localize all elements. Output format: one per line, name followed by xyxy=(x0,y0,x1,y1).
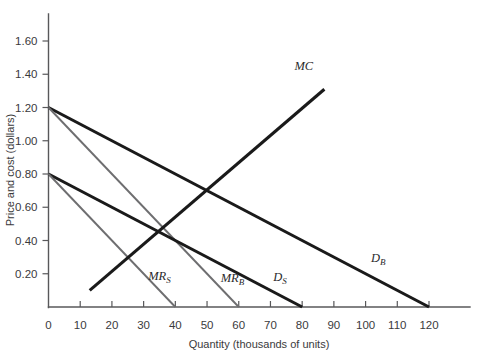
curve-mr-b xyxy=(49,108,239,308)
x-axis-title: Quantity (thousands of units) xyxy=(189,338,330,350)
economics-line-chart: 0.200.400.600.801.001.201.401.600 102030… xyxy=(0,0,477,358)
x-tick-label: 60 xyxy=(232,319,245,331)
chart-curve-labels: DBMRBDSMRSMC xyxy=(147,59,386,287)
x-tick-label: 110 xyxy=(388,319,406,331)
chart-curves xyxy=(49,89,430,307)
curve-label-mr-s: MRS xyxy=(147,269,171,285)
x-tick-label: 30 xyxy=(137,319,150,331)
x-tick-label: 70 xyxy=(264,319,277,331)
curve-label-subscript: B xyxy=(380,257,386,267)
y-tick-label: 0.40 xyxy=(15,235,37,247)
x-tick-label: 40 xyxy=(169,319,182,331)
curve-mr-s xyxy=(49,174,176,307)
curve-label-mc: MC xyxy=(293,59,313,73)
curve-label-main: D xyxy=(370,251,380,265)
x-tick-label: 10 xyxy=(74,319,87,331)
curve-label-main: MR xyxy=(220,271,239,285)
x-tick-label: 80 xyxy=(296,319,309,331)
x-tick-label: 100 xyxy=(356,319,375,331)
curve-label-subscript: S xyxy=(166,275,171,285)
y-tick-label: 0.80 xyxy=(15,168,37,180)
x-tick-label: 20 xyxy=(106,319,119,331)
y-tick-label: 1.00 xyxy=(15,135,37,147)
curve-label-subscript: S xyxy=(282,276,287,286)
chart-axes xyxy=(49,14,471,308)
curve-mc xyxy=(90,89,325,290)
y-axis-ticks: 0.200.400.600.801.001.201.401.600 xyxy=(15,35,52,331)
x-tick-label: 50 xyxy=(201,319,214,331)
curve-label-subscript: B xyxy=(239,277,245,287)
x-tick-label: 120 xyxy=(419,319,438,331)
y-axis-title: Price and cost (dollars) xyxy=(4,114,16,227)
origin-label: 0 xyxy=(45,319,51,331)
chart-figure: 0.200.400.600.801.001.201.401.600 102030… xyxy=(0,0,477,358)
curve-d-s xyxy=(49,174,303,307)
x-axis-ticks: 102030405060708090100110120 xyxy=(74,301,439,331)
y-tick-label: 1.40 xyxy=(15,68,37,80)
curve-label-main: MR xyxy=(147,269,166,283)
curve-label-main: MC xyxy=(293,59,313,73)
y-tick-label: 0.60 xyxy=(15,201,37,213)
curve-label-d-b: DB xyxy=(370,251,386,267)
curve-label-main: D xyxy=(272,270,282,284)
y-tick-label: 0.20 xyxy=(15,268,37,280)
x-tick-label: 90 xyxy=(327,319,340,331)
y-tick-label: 1.60 xyxy=(15,35,37,47)
y-tick-label: 1.20 xyxy=(15,102,37,114)
curve-label-d-s: DS xyxy=(272,270,287,286)
